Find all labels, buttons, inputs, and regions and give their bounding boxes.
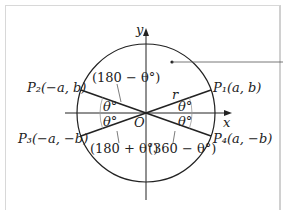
- point-p4-label: P₄(a, −b): [212, 131, 272, 146]
- y-axis-label: y: [135, 22, 144, 37]
- point-p3-label: P₃(−a, −b): [17, 131, 88, 146]
- unit-circle-diagram: y x O r P₁(a, b) P₂(−a, b) P₃(−a, −b) P₄…: [0, 0, 283, 210]
- leader-q2: [117, 84, 121, 102]
- reference-angle-q2: (180 − θ°): [92, 70, 160, 85]
- angle-label-q4: θ°: [178, 114, 192, 129]
- point-p1-label: P₁(a, b): [212, 80, 261, 95]
- origin-label: O: [134, 115, 145, 130]
- y-axis-arrow-icon: [143, 28, 149, 36]
- angle-label-q3: θ°: [103, 114, 117, 129]
- point-p2-label: P₂(−a, b): [26, 80, 86, 95]
- angle-label-q1: θ°: [178, 99, 192, 114]
- reference-angle-q4: (360 − θ°): [148, 141, 216, 156]
- angle-label-q2: θ°: [103, 99, 117, 114]
- x-axis-label: x: [223, 115, 231, 130]
